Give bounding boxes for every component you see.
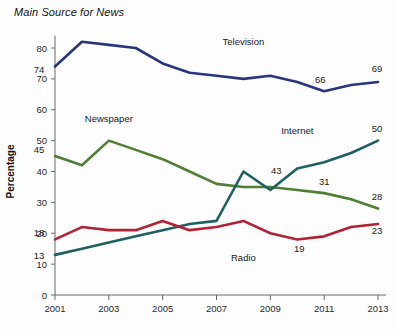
series-line-newspaper <box>55 141 378 209</box>
line-chart-plot: 01020304050607080Percentage 200120032005… <box>0 0 397 333</box>
y-tick-label: 40 <box>36 166 47 177</box>
series-label-internet: Internet <box>281 125 314 136</box>
data-point-label: 19 <box>294 243 305 254</box>
series-label-television: Television <box>223 36 265 47</box>
x-tick-label: 2005 <box>152 303 173 314</box>
data-point-label: 45 <box>34 144 45 155</box>
series-label-radio: Radio <box>231 252 256 263</box>
x-tick-label: 2003 <box>98 303 119 314</box>
x-tick-label: 2007 <box>206 303 227 314</box>
y-axis-title: Percentage <box>5 144 16 198</box>
x-tick-label: 2001 <box>44 303 65 314</box>
series-line-television <box>55 42 378 91</box>
series-lines <box>55 42 378 255</box>
y-tick-label: 30 <box>36 197 47 208</box>
data-point-label: 31 <box>319 176 330 187</box>
series-line-internet <box>55 141 378 255</box>
x-tick-label: 2011 <box>314 303 334 314</box>
chart-container: Main Source for News 01020304050607080Pe… <box>0 0 397 333</box>
series-line-radio <box>55 221 378 240</box>
data-point-label: 28 <box>372 191 383 202</box>
data-point-label: 23 <box>372 225 383 236</box>
y-axis: 01020304050607080Percentage <box>5 36 55 301</box>
y-tick-label: 70 <box>36 73 47 84</box>
x-tick-label: 2009 <box>260 303 281 314</box>
data-point-label: 43 <box>271 165 282 176</box>
y-tick-label: 80 <box>36 43 47 54</box>
y-tick-label: 60 <box>36 104 47 115</box>
data-point-label: 13 <box>34 250 45 261</box>
x-axis: 2001200320052007200920112013 <box>44 295 388 314</box>
x-tick-label: 2013 <box>367 303 388 314</box>
data-point-label: 66 <box>315 74 326 85</box>
data-point-label: 50 <box>372 123 383 134</box>
data-point-label: 69 <box>372 63 383 74</box>
series-label-newspaper: Newspaper <box>85 113 133 124</box>
data-point-label: 74 <box>34 64 45 75</box>
y-tick-label: 0 <box>42 290 47 301</box>
data-point-label: 18 <box>34 227 45 238</box>
